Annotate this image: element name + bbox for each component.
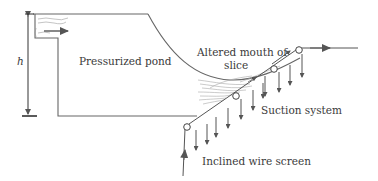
wire-label: Inclined wire screen	[202, 156, 311, 167]
pond-label: Pressurized pond	[79, 56, 172, 67]
inlet-flow	[35, 18, 68, 37]
suction-label: Suction system	[261, 105, 342, 116]
roller-3	[271, 66, 278, 73]
roller-2	[233, 93, 240, 100]
headbox-diagram	[0, 0, 378, 181]
mouth-label-line1: Altered mouth of	[197, 47, 287, 58]
mouth-label-line2: slice	[224, 60, 248, 71]
height-label: h	[17, 56, 24, 67]
roller-4	[296, 47, 303, 54]
roller-1	[184, 124, 191, 131]
